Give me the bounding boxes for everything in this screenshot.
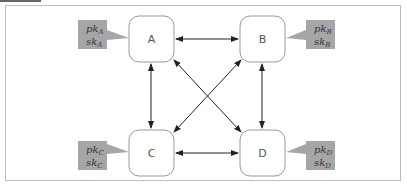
- node-d-label: D: [258, 147, 266, 160]
- node-c: C: [129, 130, 174, 176]
- diagram-canvas: pkA skA pkB skB pkC skC pkD skD A B C D: [0, 0, 407, 190]
- node-a: A: [129, 16, 174, 62]
- node-c-label: C: [148, 147, 156, 160]
- key-callout-d: pkD skD: [286, 141, 335, 170]
- key-callout-c: pkC skC: [78, 141, 129, 170]
- pk-b-label: pk: [314, 23, 326, 34]
- sk-d-label: sk: [314, 157, 325, 168]
- key-callout-b: pkB skB: [286, 20, 335, 49]
- node-a-label: A: [148, 33, 156, 46]
- node-d: D: [240, 130, 285, 176]
- node-b-label: B: [259, 33, 267, 46]
- sk-a-label: sk: [86, 36, 97, 47]
- node-b: B: [240, 16, 285, 62]
- sk-b-label: sk: [314, 36, 325, 47]
- sk-c-label: sk: [86, 157, 97, 168]
- pk-d-label: pk: [314, 144, 326, 155]
- pk-a-label: pk: [86, 23, 98, 34]
- key-callout-a: pkA skA: [78, 20, 129, 49]
- pk-c-label: pk: [86, 144, 98, 155]
